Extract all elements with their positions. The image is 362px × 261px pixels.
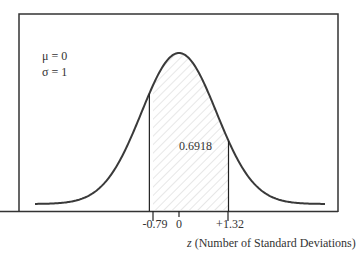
sigma-label: σ = 1 [42,64,67,80]
tick-label-zero: 0 [176,217,182,232]
tick-label-pos132: +1.32 [216,217,244,232]
x-axis-title: z (Number of Standard Deviations) [187,236,356,251]
shaded-area [149,53,228,211]
mu-label: μ = 0 [42,48,67,64]
axis-description: (Number of Standard Deviations) [192,236,356,250]
distribution-parameters: μ = 0 σ = 1 [42,48,67,80]
tick-label-neg079: -0.79 [143,217,168,232]
shaded-area-label: 0.6918 [179,139,212,154]
